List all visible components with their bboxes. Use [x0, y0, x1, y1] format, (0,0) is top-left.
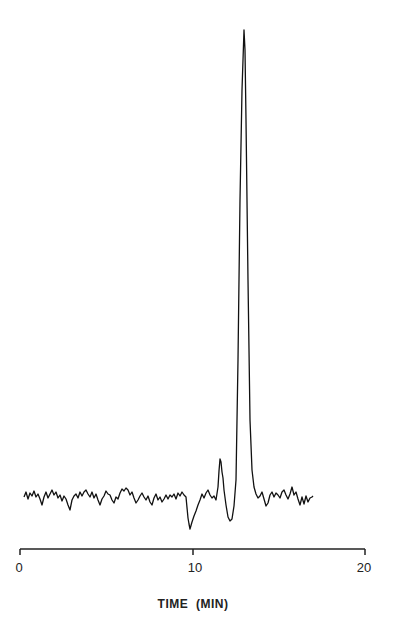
chromatogram-plot	[0, 0, 393, 633]
x-tick-label-10: 10	[188, 560, 202, 575]
x-axis	[20, 549, 365, 555]
x-tick-label-20: 20	[357, 560, 371, 575]
chromatogram-trace	[24, 30, 313, 529]
x-axis-label: TIME (MIN)	[158, 597, 229, 611]
x-tick-label-0: 0	[15, 560, 22, 575]
